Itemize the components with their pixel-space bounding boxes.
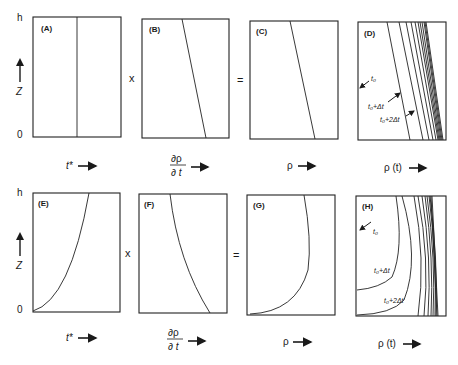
annotation-t0-plus-2dt: t₀+2Δt bbox=[380, 116, 401, 123]
svg-text:∂ t: ∂ t bbox=[171, 167, 183, 178]
axis-var-z: Z bbox=[15, 260, 23, 271]
axis-bottom-0: 0 bbox=[17, 129, 23, 140]
svg-text:∂ t: ∂ t bbox=[168, 341, 180, 352]
multiply-operator: x bbox=[125, 247, 131, 259]
axis-top-h: h bbox=[17, 12, 23, 23]
svg-text:∂ρ: ∂ρ bbox=[168, 327, 179, 338]
panel-f: (F) bbox=[139, 194, 227, 313]
linear-gradient-line bbox=[182, 19, 206, 138]
axis-top-h: h bbox=[17, 187, 23, 198]
xlabel-f: ∂ρ ∂ t bbox=[167, 327, 205, 352]
annotation-t0: t₀ bbox=[373, 228, 378, 235]
panel-a-label: (A) bbox=[41, 24, 52, 33]
t0-plus-2dt-arrow-icon bbox=[406, 111, 414, 116]
panel-g-label: (G) bbox=[253, 201, 265, 210]
xlabel-d: ρ (t) bbox=[384, 162, 426, 173]
xlabel-c: ρ bbox=[287, 160, 315, 171]
panel-g: (G) bbox=[247, 195, 335, 315]
panel-c-label: (C) bbox=[256, 27, 267, 36]
density-line bbox=[290, 21, 315, 139]
panel-b: (B) bbox=[142, 19, 229, 138]
xlabel-e: t* bbox=[66, 332, 96, 343]
density-curve bbox=[250, 195, 309, 314]
svg-text:ρ: ρ bbox=[283, 336, 289, 347]
xlabel-h: ρ (t) bbox=[378, 338, 420, 349]
axis-var-z: Z bbox=[15, 86, 23, 97]
t0-plus-dt-arrow-icon bbox=[388, 93, 400, 102]
panel-d: (D) t₀ t₀+Δt t₀+2Δt bbox=[358, 22, 446, 140]
panel-c: (C) bbox=[250, 21, 338, 139]
z-up-arrow-icon bbox=[16, 232, 24, 256]
xlabel-a: t* bbox=[66, 160, 96, 171]
decreasing-gradient-curve bbox=[170, 194, 210, 313]
svg-text:ρ: ρ bbox=[287, 160, 293, 171]
panel-f-label: (F) bbox=[144, 200, 155, 209]
equals-operator: = bbox=[233, 249, 239, 261]
svg-text:ρ (t): ρ (t) bbox=[384, 162, 402, 173]
panel-d-label: (D) bbox=[364, 29, 375, 38]
t0-arrow-icon bbox=[360, 81, 369, 88]
top-row: h 0 Z (A) x (B) = (C) (D) bbox=[15, 12, 446, 178]
annotation-t0-plus-2dt: t₀+2Δt bbox=[384, 297, 405, 304]
xlabel-b: ∂ρ ∂ t bbox=[170, 153, 208, 178]
svg-text:t*: t* bbox=[66, 160, 74, 171]
axis-bottom-0: 0 bbox=[17, 304, 23, 315]
bottom-row: h 0 Z (E) x (F) = (G) (H) bbox=[15, 187, 446, 352]
panel-e-label: (E) bbox=[38, 199, 49, 208]
panel-h-label: (H) bbox=[362, 202, 373, 211]
annotation-t0: t₀ bbox=[371, 75, 376, 82]
density-evolution-figure: h 0 Z (A) x (B) = (C) (D) bbox=[0, 0, 458, 365]
annotation-t0-plus-dt: t₀+Δt bbox=[368, 103, 385, 110]
z-up-arrow-icon bbox=[16, 58, 24, 82]
increasing-curve bbox=[33, 193, 89, 311]
panel-a: (A) bbox=[33, 17, 121, 137]
panel-h: (H) t₀ t₀+Δt t₀+2Δt bbox=[356, 196, 446, 316]
panel-b-label: (B) bbox=[149, 25, 160, 34]
panel-e: (E) bbox=[33, 193, 120, 312]
xlabel-g: ρ bbox=[283, 336, 311, 347]
equals-operator: = bbox=[237, 74, 243, 86]
svg-text:ρ (t): ρ (t) bbox=[378, 338, 396, 349]
multiply-operator: x bbox=[129, 72, 135, 84]
svg-text:∂ρ: ∂ρ bbox=[171, 153, 182, 164]
annotation-t0-plus-dt: t₀+Δt bbox=[374, 267, 391, 274]
t0-arrow-icon bbox=[360, 222, 371, 230]
svg-text:t*: t* bbox=[66, 332, 74, 343]
